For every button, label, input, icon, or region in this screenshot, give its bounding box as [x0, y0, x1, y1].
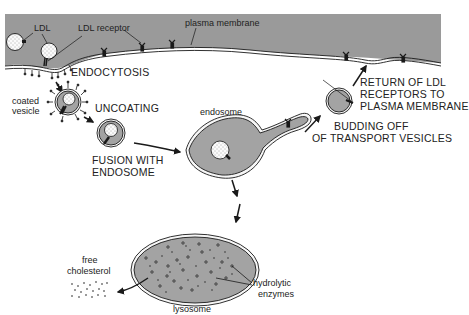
label-endocytosis: ENDOCYTOSIS: [71, 66, 149, 78]
arrow-to-lysosome-1: [232, 180, 237, 196]
arrow-to-lysosome-2: [236, 204, 240, 222]
lysosome: [131, 234, 259, 306]
endosome: [186, 113, 311, 178]
label-hydrolytic-line1: hydrolytic: [253, 278, 291, 288]
label-free-cholesterol-line2: cholesterol: [67, 266, 111, 276]
uncoated-vesicle: [97, 119, 125, 147]
label-return-line1: RETURN OF LDL: [360, 76, 446, 88]
label-coated-vesicle-line2: vesicle: [12, 106, 40, 116]
label-free-cholesterol-line1: free: [82, 255, 98, 265]
label-budding-line2: OF TRANSPORT VESICLES: [312, 132, 452, 144]
transport-vesicle: [326, 88, 353, 114]
label-plasma-membrane: plasma membrane: [185, 18, 260, 28]
label-return-line3: PLASMA MEMBRANE: [360, 100, 469, 112]
label-return-line2: RECEPTORS TO: [360, 88, 445, 100]
label-hydrolytic-line2: enzymes: [258, 289, 294, 299]
label-lysosome: lysosome: [173, 304, 211, 314]
free-cholesterol-dots: [71, 281, 108, 298]
label-endosome: endosome: [200, 107, 242, 117]
coated-vesicle: [47, 81, 88, 122]
label-uncoating: UNCOATING: [95, 102, 159, 114]
arrow-uncoating: [84, 117, 93, 122]
label-budding-line1: BUDDING OFF: [334, 120, 409, 132]
arrow-fusion: [134, 143, 180, 152]
label-fusion-line1: FUSION WITH: [92, 154, 164, 166]
label-coated-vesicle-line1: coated: [12, 96, 39, 106]
label-ldl-receptor: LDL receptor: [78, 23, 130, 33]
label-ldl: LDL: [34, 23, 51, 33]
label-fusion-line2: ENDOSOME: [92, 166, 155, 178]
